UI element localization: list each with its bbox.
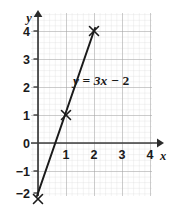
y-tick-label-minus-2: −2: [16, 187, 30, 201]
x-tick-label-1: 1: [63, 148, 70, 162]
x-axis-arrowhead: [157, 139, 164, 148]
equation-lhs: y: [71, 73, 80, 88]
y-tick-label-3: 3: [23, 53, 30, 67]
x-tick-label-4: 4: [147, 148, 154, 162]
y-tick-label-minus-1: −1: [16, 165, 30, 179]
x-tick-label-3: 3: [119, 148, 126, 162]
y-axis-label: y: [24, 11, 32, 25]
y-axis-tick-labels: 4 3 2 1 0 −1 −2: [16, 25, 30, 201]
y-tick-label-1: 1: [23, 109, 30, 123]
x-tick-label-2: 2: [91, 148, 98, 162]
equation-equals: =: [83, 73, 91, 88]
equation-slope-term: 3x: [93, 73, 108, 88]
equation-intercept: 2: [122, 73, 129, 88]
y-tick-label-0: 0: [23, 137, 30, 151]
coordinate-plane: 4 3 2 1 0 −1 −2 1 2 3 4 y x: [0, 0, 171, 208]
equation-minus: −: [111, 73, 119, 88]
y-tick-label-2: 2: [23, 81, 30, 95]
x-axis-label: x: [159, 149, 166, 163]
y-tick-label-4: 4: [23, 25, 30, 39]
graph-figure: 4 3 2 1 0 −1 −2 1 2 3 4 y x: [0, 0, 171, 208]
